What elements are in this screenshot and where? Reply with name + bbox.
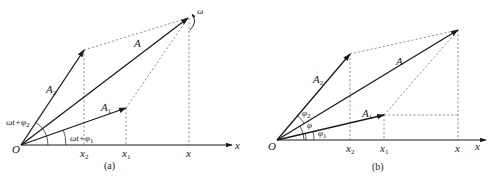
projection-label-x-b: x — [454, 142, 460, 154]
vector-label-a2: A2 — [45, 83, 57, 97]
phasor-diagram-figure: O x A A2 A1 ωt+φ2 ωt+φ1 ω x2 x1 x (a) O … — [0, 0, 492, 181]
vector-a2-b — [277, 54, 350, 140]
vector-a2 — [21, 50, 84, 145]
vector-label-a1: A1 — [100, 101, 112, 115]
origin-label-b: O — [268, 140, 276, 152]
projection-label-x1-b: x1 — [379, 142, 389, 156]
parallelogram-edge-a1-to-a-b — [384, 30, 458, 115]
angle-label-phi2: φ2 — [302, 108, 311, 120]
panel-a — [21, 14, 232, 145]
angle-label-phi1: φ1 — [318, 128, 327, 140]
vector-a — [21, 18, 188, 145]
parallelogram-edge-a2-to-a-b — [350, 30, 458, 54]
angle-arc-phi1-inner — [305, 133, 306, 140]
vector-label-a1-b: A1 — [361, 107, 373, 121]
rotation-arrow-icon — [190, 14, 195, 30]
angle-arc-phase1 — [63, 130, 66, 145]
angle-label-phase2: ωt+φ2 — [6, 117, 30, 129]
origin-label-a: O — [12, 143, 20, 155]
angle-arc-phi — [300, 126, 304, 140]
axis-label-a: x — [234, 139, 240, 151]
vector-label-a-b: A — [395, 55, 403, 67]
parallelogram-edge-a1-to-a — [126, 18, 188, 108]
projection-label-x1-a: x1 — [121, 147, 131, 161]
caption-b: (b) — [372, 161, 384, 173]
angle-label-phi: φ — [307, 120, 312, 130]
vector-label-a2-b: A2 — [312, 73, 324, 87]
vector-label-a: A — [133, 37, 141, 49]
rotation-label-omega: ω — [197, 6, 203, 16]
projection-label-x2-a: x2 — [79, 147, 89, 161]
axis-label-b: x — [474, 140, 480, 152]
angle-arc-phi1 — [313, 132, 314, 140]
vector-a-b — [277, 30, 458, 140]
projection-label-x2-b: x2 — [345, 142, 355, 156]
angle-label-phase1: ωt+φ1 — [70, 133, 94, 145]
caption-a: (a) — [104, 160, 115, 172]
projection-label-x-a: x — [185, 147, 191, 159]
